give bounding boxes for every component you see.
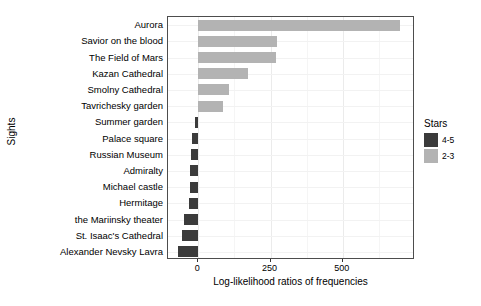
x-axis-title: Log-likelihood ratios of frequencies — [167, 276, 414, 287]
y-tick-label: The Field of Mars — [22, 48, 163, 65]
y-tick-label: Aurora — [22, 16, 163, 33]
bar — [198, 20, 400, 31]
y-tick-label: Alexander Nevsky Lavra — [22, 243, 163, 260]
legend-item[interactable]: 2-3 — [424, 149, 479, 163]
x-tick-mark — [197, 259, 198, 262]
gridline-horizontal — [168, 220, 413, 221]
y-tick-label: the Mariinsky theater — [22, 210, 163, 227]
legend-label: 2-3 — [442, 151, 454, 161]
y-tick-label: Russian Museum — [22, 146, 163, 163]
gridline-vertical-major — [343, 17, 344, 258]
gridline-horizontal — [168, 122, 413, 123]
legend: Stars 4-52-3 — [424, 118, 479, 165]
gridline-horizontal — [168, 171, 413, 172]
bar — [198, 101, 223, 112]
x-axis-ticks: 0250500 — [167, 259, 414, 275]
legend-item[interactable]: 4-5 — [424, 133, 479, 147]
x-tick-mark — [342, 259, 343, 262]
legend-title: Stars — [424, 118, 479, 129]
gridline-vertical-minor — [379, 17, 380, 258]
bar — [191, 149, 199, 160]
gridline-horizontal — [168, 155, 413, 156]
gridline-horizontal — [168, 252, 413, 253]
y-tick-label: Hermitage — [22, 194, 163, 211]
x-tick-label: 0 — [195, 263, 200, 273]
gridline-vertical-minor — [307, 17, 308, 258]
bar — [182, 230, 198, 241]
y-tick-label: Kazan Cathedral — [22, 65, 163, 82]
bar — [198, 36, 276, 47]
bar — [190, 165, 198, 176]
bar — [178, 246, 198, 257]
y-tick-label: Michael castle — [22, 178, 163, 195]
y-tick-label: Palace square — [22, 129, 163, 146]
y-axis-title-text: Sights — [7, 117, 18, 145]
gridline-horizontal — [168, 187, 413, 188]
gridline-horizontal — [168, 139, 413, 140]
y-axis-title: Sights — [2, 0, 22, 262]
x-tick-label: 500 — [334, 263, 349, 273]
gridline-horizontal — [168, 203, 413, 204]
bar — [192, 133, 198, 144]
bar — [198, 52, 276, 63]
legend-swatch — [424, 149, 438, 163]
y-tick-label: St. Isaac's Cathedral — [22, 227, 163, 244]
y-tick-label: Smolny Cathedral — [22, 81, 163, 98]
bar-chart: Sights AuroraSavior on the bloodThe Fiel… — [0, 0, 481, 306]
bar — [198, 68, 247, 79]
bar — [198, 84, 229, 95]
legend-items: 4-52-3 — [424, 133, 479, 163]
y-axis-tick-labels: AuroraSavior on the bloodThe Field of Ma… — [22, 16, 163, 259]
bar — [195, 117, 198, 128]
bar — [190, 182, 199, 193]
gridline-horizontal — [168, 236, 413, 237]
y-tick-label: Tavrichesky garden — [22, 97, 163, 114]
x-tick-mark — [270, 259, 271, 262]
bar — [184, 214, 198, 225]
y-tick-label: Admiralty — [22, 162, 163, 179]
y-tick-label: Savior on the blood — [22, 32, 163, 49]
bar — [189, 198, 199, 209]
legend-label: 4-5 — [442, 135, 454, 145]
x-tick-label: 250 — [262, 263, 277, 273]
plot-panel — [167, 16, 414, 259]
legend-swatch — [424, 133, 438, 147]
y-tick-label: Summer garden — [22, 113, 163, 130]
